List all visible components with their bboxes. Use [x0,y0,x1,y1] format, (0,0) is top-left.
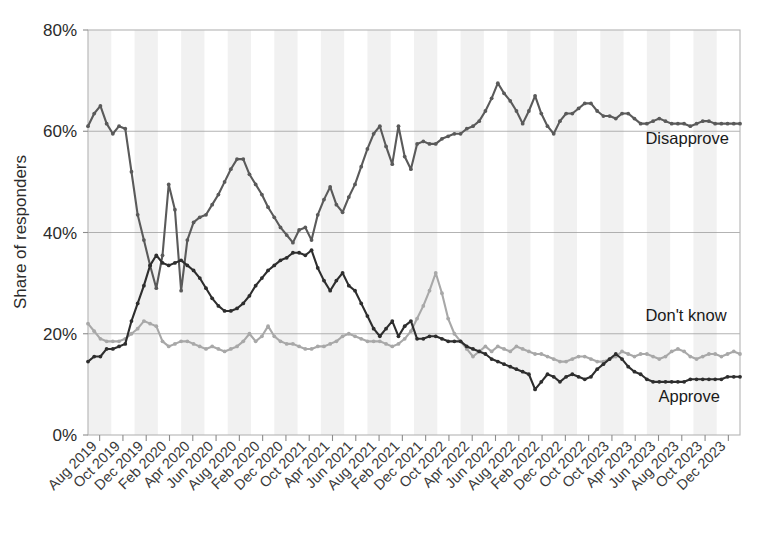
data-point [701,119,705,123]
data-point [279,339,283,343]
data-point [372,339,376,343]
data-point [167,183,171,187]
data-point [409,319,413,323]
data-point [279,258,283,262]
data-point [366,314,370,318]
data-point [179,258,183,262]
data-point [185,238,189,242]
data-point [626,352,630,356]
data-point [688,377,692,381]
data-point [297,228,301,232]
data-point [670,122,674,126]
data-point [452,332,456,336]
data-point [639,372,643,376]
data-point [490,350,494,354]
data-point [260,334,264,338]
data-point [378,339,382,343]
data-point [633,355,637,359]
data-point [521,122,525,126]
data-point [136,301,140,305]
data-point [539,112,543,116]
data-point [558,360,562,364]
data-point [651,380,655,384]
data-point [428,289,432,293]
data-point [161,253,165,257]
data-point [334,279,338,283]
data-point [148,264,152,268]
data-point [353,334,357,338]
data-point [310,238,314,242]
data-point [620,350,624,354]
data-point [639,352,643,356]
data-point [440,291,444,295]
data-point [161,261,165,265]
data-point [682,122,686,126]
data-point [570,372,574,376]
data-point [738,375,742,379]
data-point [241,339,245,343]
data-point [235,157,239,161]
data-point [390,345,394,349]
data-point [490,357,494,361]
data-point [341,334,345,338]
data-point [341,271,345,275]
data-point [347,332,351,336]
y-tick-label: 20% [43,325,77,344]
data-point [657,380,661,384]
data-point [136,327,140,331]
data-point [235,307,239,311]
data-point [192,342,196,346]
data-point [378,124,382,128]
data-point [471,355,475,359]
data-point [707,119,711,123]
data-point [496,81,500,85]
data-point [570,112,574,116]
data-point [285,256,289,260]
data-point [179,289,183,293]
data-point [434,334,438,338]
data-point [626,365,630,369]
data-point [272,334,276,338]
data-point [533,388,537,392]
data-point [657,117,661,121]
data-point [471,124,475,128]
data-point [310,248,314,252]
data-point [589,375,593,379]
data-point [347,195,351,199]
data-point [719,355,723,359]
data-point [645,352,649,356]
data-point [111,132,115,136]
data-point [142,319,146,323]
data-point [552,375,556,379]
y-tick-label: 80% [43,21,77,40]
data-point [105,347,109,351]
data-point [217,304,221,308]
data-point [577,107,581,111]
data-point [123,342,127,346]
data-point [651,355,655,359]
data-point [446,317,450,321]
data-point [254,284,258,288]
data-point [86,360,90,364]
data-point [707,352,711,356]
y-axis-ticks: 0%20%40%60%80% [43,21,88,445]
data-point [254,339,258,343]
data-point [154,324,158,328]
data-point [384,327,388,331]
data-point [428,142,432,146]
data-point [403,337,407,341]
data-point [198,276,202,280]
data-point [546,355,550,359]
data-point [217,347,221,351]
data-point [285,233,289,237]
series-label-don-t-know: Don't know [645,306,726,324]
data-point [248,172,252,176]
data-point [303,347,307,351]
data-point [564,360,568,364]
data-point [440,337,444,341]
data-point [583,102,587,106]
data-point [198,345,202,349]
data-point [378,334,382,338]
data-point [539,380,543,384]
data-point [496,345,500,349]
